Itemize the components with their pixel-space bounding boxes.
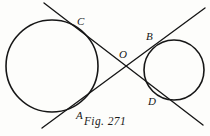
point-label-b: B xyxy=(146,31,153,42)
figure-271: C B O A D Fig. 271 xyxy=(0,0,210,136)
tangent-line-cd xyxy=(44,3,203,125)
point-label-d: D xyxy=(148,96,156,107)
point-label-o: O xyxy=(119,49,127,60)
point-label-c: C xyxy=(77,16,84,27)
tangent-line-ab xyxy=(42,8,205,128)
figure-caption: Fig. 271 xyxy=(0,115,210,127)
right-circle xyxy=(144,40,204,100)
